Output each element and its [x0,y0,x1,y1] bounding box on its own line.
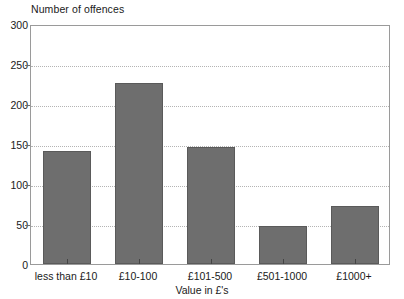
x-axis-tick-label: £1000+ [336,270,371,282]
y-axis-tick-mark [25,225,30,226]
bar [43,151,91,264]
gridline [31,106,389,107]
bar [331,206,379,264]
x-axis-tick-label: £101-500 [188,270,232,282]
x-axis-tick-mark [139,259,140,264]
y-axis-tick-label: 150 [0,139,28,151]
y-axis-tick-label: 250 [0,59,28,71]
gridline [31,66,389,67]
y-axis-tick-label: 300 [0,19,28,31]
y-axis-tick-label: 50 [0,219,28,231]
y-axis-tick-label: 100 [0,179,28,191]
x-axis-tick-label: £501-1000 [257,270,307,282]
bar [187,147,235,264]
chart-title: Number of offences [31,3,124,15]
plot-area [30,25,390,265]
x-axis-tick-mark [67,259,68,264]
x-axis-tick-mark [283,259,284,264]
x-axis-title: Value in £'s [0,284,404,296]
y-axis-tick-mark [25,65,30,66]
bar [115,83,163,264]
x-axis-tick-mark [211,259,212,264]
x-axis-tick-label: £10-100 [119,270,158,282]
y-axis-tick-mark [25,185,30,186]
x-axis-tick-label: less than £10 [35,270,97,282]
y-axis-tick-mark [25,105,30,106]
bar-chart: Number of offences Value in £'s 05010015… [0,0,404,299]
y-axis-tick-mark [25,145,30,146]
y-axis-tick-label: 200 [0,99,28,111]
y-axis-tick-label: 0 [0,259,28,271]
x-axis-tick-mark [355,259,356,264]
